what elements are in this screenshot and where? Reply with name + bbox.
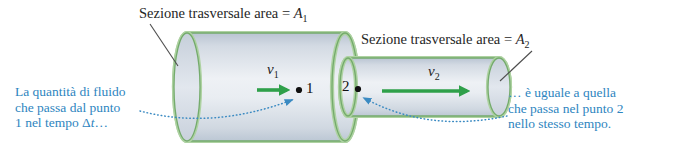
section-area-2-text: Sezione trasversale area = (361, 31, 516, 47)
fluid-continuity-figure: Sezione trasversale area = A1 Sezione tr… (0, 0, 680, 153)
v1-variable: v (267, 61, 274, 77)
left-annotation-line3: 1 nel tempo Δt… (15, 115, 126, 131)
v1-subscript: 1 (274, 69, 279, 80)
v2-subscript: 2 (435, 71, 440, 82)
small-pipe-outline-dark (340, 58, 510, 116)
point-1-dot (296, 87, 302, 93)
area-1-variable: A (294, 5, 303, 21)
left-annotation-line2: che passa dal punto (15, 100, 126, 116)
section-area-1-label: Sezione trasversale area = A1 (139, 6, 308, 26)
point-2-dot (355, 86, 361, 92)
small-pipe-right-cap-rim-dark (488, 58, 510, 116)
section-area-2-label: Sezione trasversale area = A2 (361, 32, 530, 52)
v2-label: v2 (428, 64, 440, 84)
right-annotation-line3: nello stesso tempo. (508, 116, 623, 132)
area-1-subscript: 1 (303, 13, 308, 24)
right-annotation-line2: che passa nel punto 2 (508, 101, 623, 117)
area-2-subscript: 2 (525, 39, 530, 50)
point-2-numeral: 2 (342, 79, 350, 94)
point-1-numeral: 1 (306, 81, 314, 96)
left-annotation-line3-text: 1 nel tempo Δ (15, 115, 91, 130)
v1-label: v1 (267, 62, 279, 82)
area-2-variable: A (516, 31, 525, 47)
left-annotation-ellipsis: … (95, 115, 109, 130)
left-annotation: La quantità di fluido che passa dal punt… (15, 84, 126, 131)
large-pipe (174, 33, 358, 141)
section-area-1-text: Sezione trasversale area = (139, 5, 294, 21)
leader-line-a1 (150, 24, 178, 66)
v2-variable: v (428, 63, 435, 79)
left-annotation-line1: La quantità di fluido (15, 84, 126, 100)
large-pipe-left-cap-rim-dark (174, 33, 200, 141)
right-annotation-line1: … è uguale a quella (508, 85, 623, 101)
right-annotation: … è uguale a quella che passa nel punto … (508, 85, 623, 132)
small-pipe (340, 58, 510, 116)
